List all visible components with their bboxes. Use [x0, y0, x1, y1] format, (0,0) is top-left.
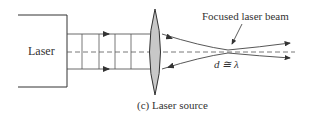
spot-size-label: d ≅ λ: [214, 58, 239, 71]
laser-label: Laser: [28, 44, 55, 59]
caption: (c) Laser source: [137, 99, 208, 111]
wavefronts: [82, 34, 131, 69]
beam-label: Focused laser beam: [202, 10, 289, 22]
lens: [150, 9, 161, 95]
